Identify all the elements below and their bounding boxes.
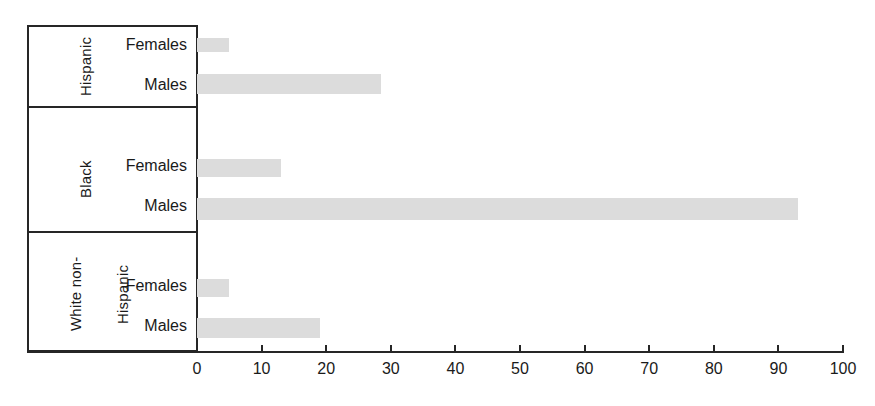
tick-10: [261, 345, 263, 352]
tick-20: [325, 345, 327, 352]
tick-label-70: 70: [640, 360, 658, 378]
tick-label-30: 30: [382, 360, 400, 378]
sex-label-white-males: Males: [27, 317, 187, 335]
tick-30: [390, 345, 392, 352]
tick-label-60: 60: [576, 360, 594, 378]
tick-label-20: 20: [317, 360, 335, 378]
sex-label-hispanic-males: Males: [27, 76, 187, 94]
bar-hispanic-males: [197, 74, 381, 94]
bar-white-non-hispanic-females: [197, 279, 229, 297]
bar-hispanic-females: [197, 38, 229, 52]
sex-label-black-females: Females: [27, 157, 187, 175]
sex-label-white-females: Females: [27, 277, 187, 295]
sex-label-black-males: Males: [27, 197, 187, 215]
tick-label-0: 0: [193, 360, 202, 378]
bar-black-males: [197, 198, 798, 220]
tick-label-50: 50: [511, 360, 529, 378]
group-separator-hispanic-black: [27, 106, 197, 108]
tick-100: [842, 345, 844, 352]
tick-70: [648, 345, 650, 352]
tick-0: [196, 345, 198, 352]
tick-60: [584, 345, 586, 352]
group-separator-black-white: [27, 231, 197, 233]
bar-white-non-hispanic-males: [197, 318, 320, 338]
tick-90: [777, 345, 779, 352]
tick-label-10: 10: [253, 360, 271, 378]
tick-label-100: 100: [830, 360, 857, 378]
tick-label-80: 80: [705, 360, 723, 378]
value-axis-line: [27, 351, 844, 353]
tick-label-90: 90: [769, 360, 787, 378]
tick-40: [454, 345, 456, 352]
tick-label-40: 40: [446, 360, 464, 378]
tick-80: [713, 345, 715, 352]
tick-50: [519, 345, 521, 352]
sex-label-hispanic-females: Females: [27, 36, 187, 54]
horizontal-bar-chart: Hispanic Black White non- Hispanic Femal…: [0, 0, 875, 406]
bar-black-females: [197, 159, 281, 177]
